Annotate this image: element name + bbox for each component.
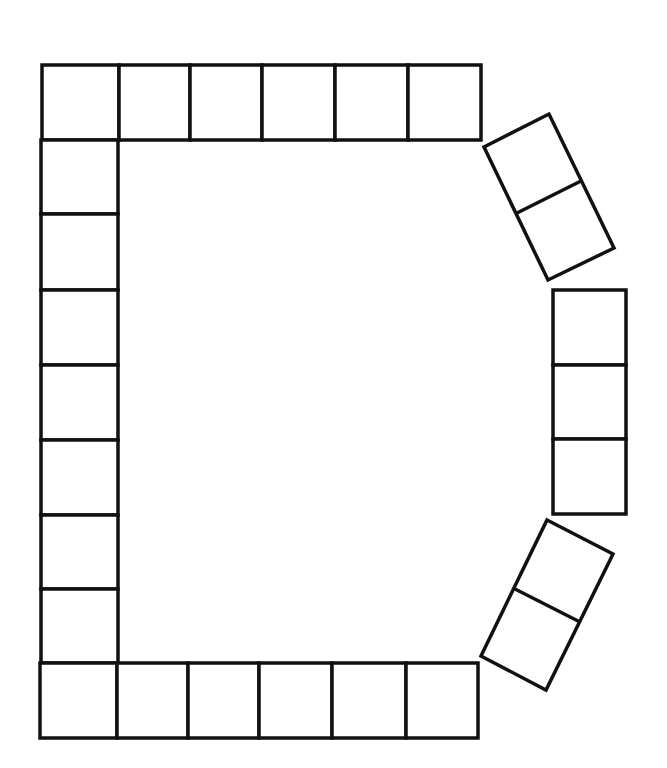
table-cell — [262, 65, 335, 140]
right-column-tables — [553, 290, 626, 514]
table-cell — [553, 290, 626, 365]
table-cell — [41, 365, 118, 440]
table-cell — [408, 65, 481, 140]
table-cell — [41, 589, 118, 663]
table-cell — [40, 663, 117, 738]
table-cell — [406, 663, 478, 738]
table-cell — [332, 663, 406, 738]
table-cell — [259, 663, 332, 738]
upper-angled-table-pair — [484, 114, 614, 280]
table-cell — [119, 65, 190, 140]
table-cell — [41, 440, 118, 515]
table-cell — [117, 663, 188, 738]
table-layout-diagram — [0, 0, 667, 768]
left-column-tables — [41, 140, 118, 663]
table-cell — [335, 65, 408, 140]
table-cell — [553, 439, 626, 514]
table-cell — [41, 214, 118, 290]
table-cell — [41, 140, 118, 214]
table-cell — [553, 365, 626, 439]
lower-angled-table-pair — [481, 520, 613, 690]
table-cell — [190, 65, 262, 140]
bottom-row-tables — [40, 663, 478, 738]
table-cell — [42, 65, 119, 140]
table-cell — [41, 290, 118, 365]
table-cell — [188, 663, 259, 738]
table-cell — [41, 515, 118, 589]
top-row-tables — [42, 65, 481, 140]
